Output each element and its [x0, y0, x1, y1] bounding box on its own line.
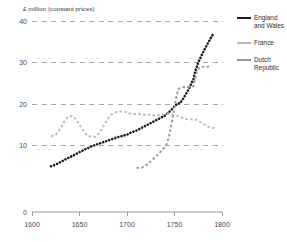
y-axis-tick-label: 30 [19, 59, 27, 66]
x-axis-ticks-group [32, 212, 222, 216]
series-line [51, 35, 213, 166]
x-axis-tick-label: 1600 [24, 221, 40, 228]
x-axis-tick-labels: 16001650170017501800 [24, 221, 230, 228]
legend-item-label: and Wales [254, 22, 284, 29]
y-axis-tick-label: 0 [23, 209, 27, 216]
series-line [137, 67, 212, 168]
line-chart: 010203040 £ million (constant prices) 16… [0, 0, 287, 242]
chart-container: 010203040 £ million (constant prices) 16… [0, 0, 287, 242]
y-axis-tick-label: 10 [19, 142, 27, 149]
x-axis-tick-label: 1800 [214, 221, 230, 228]
y-axis-title: £ million (constant prices) [23, 5, 95, 12]
y-axis-tick-labels: 010203040 [19, 18, 27, 216]
y-axis-tick-label: 40 [19, 18, 27, 25]
y-axis-tick-label: 20 [19, 101, 27, 108]
legend-item-label: France [254, 39, 274, 46]
data-series-group [51, 35, 214, 168]
x-axis-tick-label: 1700 [119, 221, 135, 228]
series-line [51, 111, 214, 136]
legend-item-label: England [254, 14, 278, 22]
legend-item-label: Republic [254, 64, 280, 72]
x-axis-tick-label: 1750 [167, 221, 183, 228]
chart-legend: Englandand WalesFranceDutchRepublic [237, 14, 284, 72]
x-axis-tick-label: 1650 [72, 221, 88, 228]
legend-item-label: Dutch [254, 56, 271, 63]
